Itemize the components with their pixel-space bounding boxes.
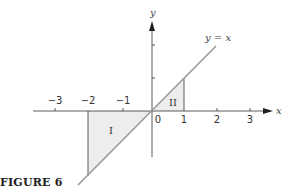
region-i-label: I [109,125,113,136]
x-tick-label-2: 2 [214,114,220,125]
y-ticks [152,45,155,78]
line-label: y = x [204,32,231,43]
x-tick-label-neg1: −1 [116,95,131,106]
y-axis-label: y [149,7,156,18]
x-axis-arrow-icon [263,108,273,114]
figure-caption: FIGURE 6 [0,176,63,189]
y-axis-arrow-icon [149,21,155,31]
x-tick-label-3: 3 [247,114,253,125]
x-tick-label-1: 1 [181,114,187,125]
x-tick-label-neg2: −2 [81,95,96,106]
x-axis-label: x [276,105,282,116]
region-ii-label: II [169,97,177,108]
x-tick-label-0: 0 [155,114,161,125]
figure-diagram: −3 −2 −1 0 1 2 3 x y y = x I II [0,0,295,194]
x-tick-label-neg3: −3 [48,95,63,106]
